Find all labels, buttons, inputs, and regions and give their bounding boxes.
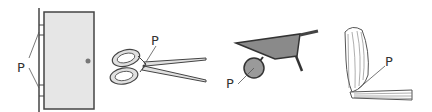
wheelbarrow-figure: P [226, 31, 318, 91]
arm-figure: P [345, 27, 412, 100]
door-pivot-label: P [17, 60, 25, 75]
scissors-figure: P [109, 33, 206, 86]
door-knob-icon [86, 59, 91, 64]
scissors-pivot-label: P [151, 33, 159, 48]
wheelbarrow-pivot-label: P [226, 76, 234, 91]
door-figure: P [17, 8, 94, 112]
pivot-diagram: P P P P [0, 0, 432, 112]
arm-pivot-label: P [385, 54, 393, 69]
